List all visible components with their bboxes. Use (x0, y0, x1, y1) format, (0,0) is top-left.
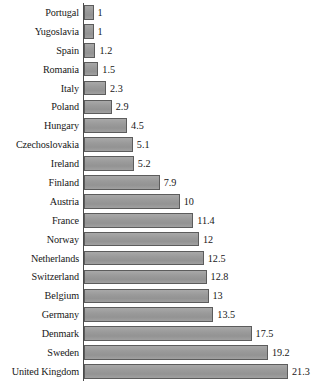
bar-row: Hungary4.5 (0, 116, 321, 135)
category-label: Norway (0, 234, 79, 245)
category-label: Yugoslavia (0, 26, 79, 37)
bar-value-label: 17.5 (256, 328, 274, 339)
bar-row: Switzerland12.8 (0, 267, 321, 286)
bar-value-label: 10 (184, 196, 194, 207)
bar-and-value: 12 (84, 230, 213, 249)
bar-value-label: 1 (98, 7, 103, 18)
bar-row: Denmark17.5 (0, 324, 321, 343)
bar-and-value: 2.3 (84, 79, 123, 98)
category-label: Finland (0, 177, 79, 188)
bar-value-label: 4.5 (131, 120, 144, 131)
category-label: Ireland (0, 158, 79, 169)
bar-value-label: 12.8 (211, 271, 229, 282)
bar-value-label: 21.3 (292, 366, 310, 377)
bar-value-label: 13 (213, 290, 223, 301)
bar (84, 5, 94, 20)
bar-and-value: 1 (84, 3, 103, 22)
bar-row: Belgium13 (0, 286, 321, 305)
bar-and-value: 4.5 (84, 116, 144, 135)
bar-and-value: 17.5 (84, 324, 273, 343)
bar-value-label: 11.4 (197, 215, 214, 226)
bar-row: Austria10 (0, 192, 321, 211)
bar (84, 100, 112, 115)
bar (84, 326, 252, 341)
bar-value-label: 1.5 (102, 64, 115, 75)
bar-and-value: 2.9 (84, 97, 129, 116)
bar-row: Finland7.9 (0, 173, 321, 192)
bar-value-label: 12 (203, 234, 213, 245)
bar-value-label: 7.9 (164, 177, 177, 188)
bar (84, 24, 94, 39)
bar (84, 43, 95, 58)
bar-and-value: 12.8 (84, 267, 228, 286)
bar (84, 345, 268, 360)
bar-and-value: 1.5 (84, 60, 115, 79)
bar-row: Czechoslovakia5.1 (0, 135, 321, 154)
bar-value-label: 5.2 (138, 158, 151, 169)
bar-and-value: 1.2 (84, 41, 112, 60)
bar (84, 270, 207, 285)
bar-row: Yugoslavia1 (0, 22, 321, 41)
bar-row: Netherlands12.5 (0, 249, 321, 268)
bar (84, 175, 160, 190)
bar-row: France11.4 (0, 211, 321, 230)
bar (84, 62, 98, 77)
category-label: Poland (0, 101, 79, 112)
category-label: Spain (0, 45, 79, 56)
category-label: Denmark (0, 328, 79, 339)
bar-value-label: 13.5 (217, 309, 235, 320)
bar (84, 156, 134, 171)
bar-and-value: 21.3 (84, 362, 310, 381)
bar-row: Romania1.5 (0, 60, 321, 79)
bar (84, 232, 199, 247)
bar-row: Spain1.2 (0, 41, 321, 60)
category-label: Italy (0, 83, 79, 94)
bar (84, 194, 180, 209)
bar-and-value: 10 (84, 192, 194, 211)
bar-and-value: 11.4 (84, 211, 215, 230)
category-label: Austria (0, 196, 79, 207)
bar-value-label: 12.5 (208, 253, 226, 264)
bar-and-value: 1 (84, 22, 103, 41)
bar-and-value: 7.9 (84, 173, 176, 192)
bar (84, 81, 106, 96)
category-label: Czechoslovakia (0, 139, 79, 150)
bar-rows-container: Portugal1Yugoslavia1Spain1.2Romania1.5It… (0, 3, 321, 381)
bar-row: Norway12 (0, 230, 321, 249)
bar-row: Italy2.3 (0, 79, 321, 98)
bar-and-value: 13 (84, 286, 223, 305)
category-label: Portugal (0, 7, 79, 18)
bar-chart: Portugal1Yugoslavia1Spain1.2Romania1.5It… (0, 0, 321, 385)
bar-value-label: 2.3 (110, 83, 123, 94)
category-label: United Kingdom (0, 366, 79, 377)
bar (84, 307, 213, 322)
bar-and-value: 12.5 (84, 249, 226, 268)
category-label: Romania (0, 64, 79, 75)
category-label: Sweden (0, 347, 79, 358)
bar (84, 137, 133, 152)
category-label: Germany (0, 309, 79, 320)
category-label: Netherlands (0, 253, 79, 264)
bar (84, 213, 193, 228)
bar (84, 251, 204, 266)
bar-row: United Kingdom21.3 (0, 362, 321, 381)
bar (84, 118, 127, 133)
bar-and-value: 5.2 (84, 154, 151, 173)
bar-value-label: 1.2 (99, 45, 112, 56)
category-label: Belgium (0, 290, 79, 301)
bar (84, 364, 288, 379)
bar-and-value: 13.5 (84, 305, 235, 324)
bar-row: Ireland5.2 (0, 154, 321, 173)
bar-and-value: 19.2 (84, 343, 290, 362)
bar-value-label: 19.2 (272, 347, 290, 358)
bar-row: Poland2.9 (0, 97, 321, 116)
bar-row: Sweden19.2 (0, 343, 321, 362)
category-label: Hungary (0, 120, 79, 131)
bar-value-label: 2.9 (116, 101, 129, 112)
bar-row: Germany13.5 (0, 305, 321, 324)
bar (84, 289, 209, 304)
bar-value-label: 5.1 (137, 139, 150, 150)
bar-row: Portugal1 (0, 3, 321, 22)
bar-and-value: 5.1 (84, 135, 150, 154)
category-label: Switzerland (0, 271, 79, 282)
